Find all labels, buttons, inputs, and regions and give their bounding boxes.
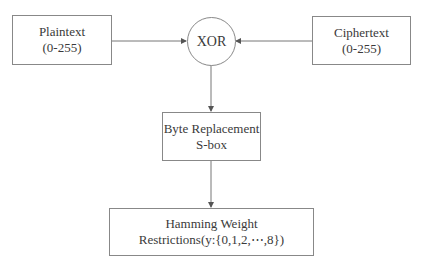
xor-label: XOR [197, 34, 227, 50]
ciphertext-node: Ciphertext (0-255) [312, 16, 411, 65]
xor-node: XOR [187, 17, 236, 66]
sbox-label: Byte Replacement [164, 121, 260, 137]
plaintext-label: Plaintext [39, 24, 85, 40]
ciphertext-label: Ciphertext [334, 25, 389, 41]
hamming-label: Hamming Weight [165, 216, 257, 232]
hamming-restrictions: Restrictions(y:{0,1,2,⋯,8}) [139, 232, 284, 248]
plaintext-node: Plaintext (0-255) [12, 15, 112, 65]
plaintext-range: (0-255) [43, 40, 82, 56]
hamming-weight-node: Hamming Weight Restrictions(y:{0,1,2,⋯,8… [109, 208, 314, 256]
sbox-node: Byte Replacement S-box [162, 112, 261, 161]
sbox-sublabel: S-box [196, 137, 227, 153]
ciphertext-range: (0-255) [342, 41, 381, 57]
